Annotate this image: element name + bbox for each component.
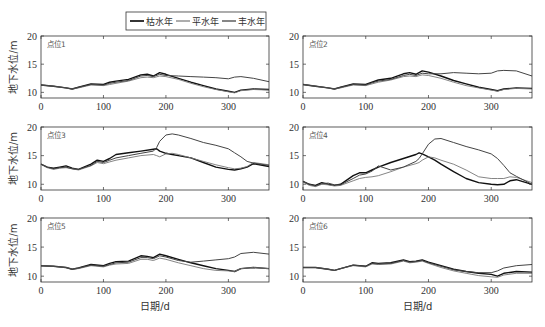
x-tick-label: 0: [39, 285, 44, 296]
panel-label: 点位3: [47, 130, 66, 140]
x-tick-label: 100: [96, 193, 111, 204]
y-tick-label: 10: [289, 271, 299, 282]
y-axis-label: 地下水位/m: [7, 223, 19, 276]
y-tick-label: 20: [27, 122, 37, 133]
x-tick-label: 0: [301, 285, 306, 296]
x-tick-label: 200: [158, 101, 173, 112]
series-line: [41, 153, 269, 170]
series-line: [41, 134, 269, 170]
x-axis-label: 日期/d: [140, 301, 170, 312]
x-tick-label: 100: [358, 193, 373, 204]
y-tick-label: 20: [289, 31, 299, 42]
legend-label: 丰水年: [238, 16, 265, 27]
y-tick-label: 20: [27, 213, 37, 224]
panel-5: 0100200300101520点位5地下水位/m日期/d: [7, 213, 269, 313]
y-tick-label: 20: [27, 31, 37, 42]
series-line: [41, 149, 269, 170]
y-tick-label: 10: [289, 179, 299, 190]
x-tick-label: 300: [221, 285, 236, 296]
panel-4: 0100200300101520点位4: [289, 122, 532, 205]
panels: 0100200300101520点位1地下水位/m010020030010152…: [7, 31, 532, 313]
y-tick-label: 10: [289, 87, 299, 98]
plot-frame: [41, 218, 269, 282]
legend: 枯水年平水年丰水年: [126, 12, 266, 30]
x-tick-label: 200: [421, 193, 436, 204]
x-tick-label: 200: [421, 101, 436, 112]
x-tick-label: 300: [484, 193, 499, 204]
panel-label: 点位4: [309, 130, 328, 140]
panel-label: 点位5: [47, 221, 66, 231]
x-tick-label: 0: [39, 101, 44, 112]
figure: 枯水年平水年丰水年 0100200300101520点位1地下水位/m01002…: [0, 0, 545, 327]
y-tick-label: 10: [27, 271, 37, 282]
y-tick-label: 15: [289, 150, 299, 161]
panel-1: 0100200300101520点位1地下水位/m: [7, 31, 269, 113]
legend-label: 枯水年: [146, 16, 173, 27]
x-tick-label: 0: [39, 193, 44, 204]
series-line: [41, 252, 269, 269]
panel-3: 0100200300101520点位3地下水位/m: [7, 122, 269, 205]
series-line: [41, 258, 269, 271]
x-tick-label: 100: [96, 285, 111, 296]
x-tick-label: 300: [484, 285, 499, 296]
x-tick-label: 100: [358, 101, 373, 112]
x-tick-label: 300: [221, 101, 236, 112]
series-line: [303, 157, 532, 187]
legend-label: 平水年: [192, 16, 219, 27]
panel-label: 点位6: [309, 221, 328, 231]
x-tick-label: 200: [421, 285, 436, 296]
x-tick-label: 100: [96, 101, 111, 112]
y-tick-label: 10: [27, 179, 37, 190]
x-tick-label: 300: [484, 101, 499, 112]
panel-label: 点位1: [47, 39, 66, 49]
y-tick-label: 15: [289, 242, 299, 253]
x-axis-label: 日期/d: [403, 301, 433, 312]
series-line: [41, 74, 269, 89]
panel-6: 0100200300101520点位6日期/d: [289, 213, 532, 313]
y-tick-label: 20: [289, 213, 299, 224]
panel-label: 点位2: [309, 39, 328, 49]
y-axis-label: 地下水位/m: [7, 40, 19, 93]
y-tick-label: 15: [27, 150, 37, 161]
y-tick-label: 10: [27, 87, 37, 98]
y-tick-label: 15: [289, 59, 299, 70]
series-line: [303, 153, 532, 186]
plot-frame: [41, 127, 269, 190]
x-tick-label: 100: [358, 285, 373, 296]
x-tick-label: 200: [158, 285, 173, 296]
y-tick-label: 15: [27, 242, 37, 253]
y-tick-label: 15: [27, 59, 37, 70]
series-line: [303, 75, 532, 91]
y-axis-label: 地下水位/m: [7, 132, 19, 185]
series-line: [41, 76, 269, 93]
x-tick-label: 200: [158, 193, 173, 204]
x-tick-label: 0: [301, 101, 306, 112]
plot-frame: [303, 218, 532, 282]
x-tick-label: 300: [221, 193, 236, 204]
panel-2: 0100200300101520点位2: [289, 31, 532, 113]
y-tick-label: 20: [289, 122, 299, 133]
x-tick-label: 0: [301, 193, 306, 204]
